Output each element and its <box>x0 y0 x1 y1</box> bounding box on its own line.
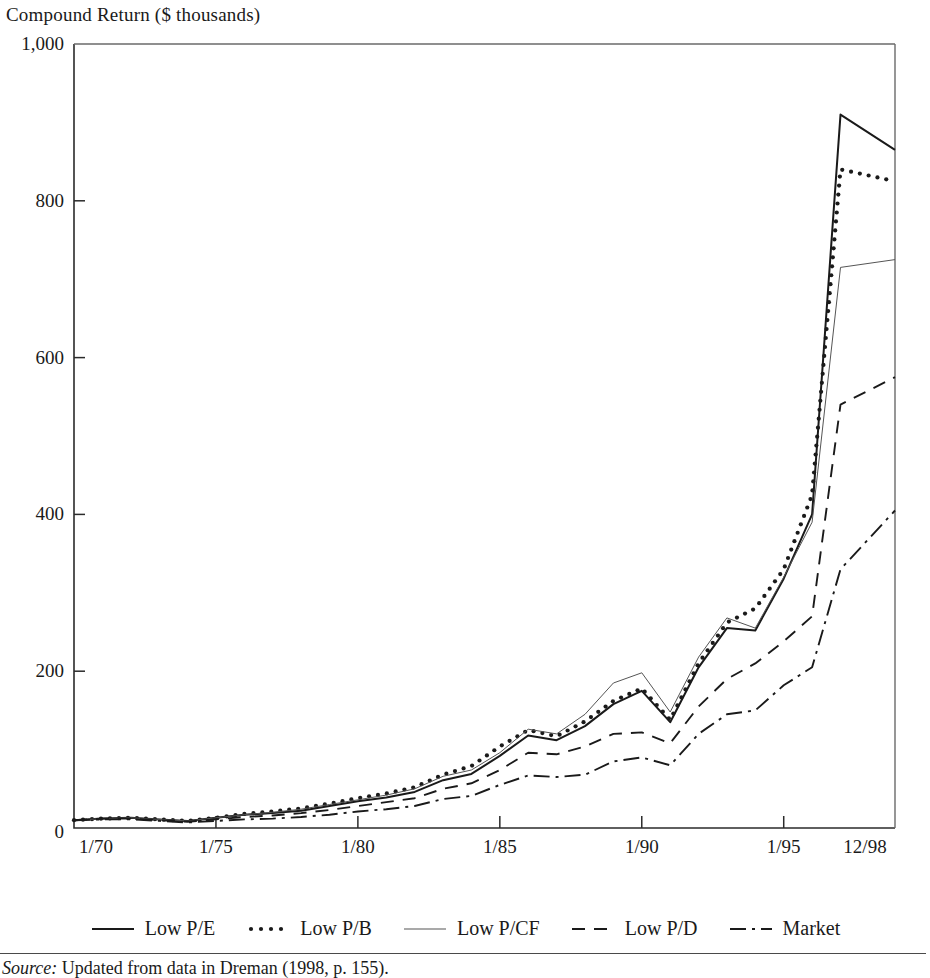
legend-item-low-p-d: Low P/D <box>570 917 698 940</box>
horizontal-divider <box>0 953 926 954</box>
legend-item-low-p-cf: Low P/CF <box>402 917 540 940</box>
y-tick-label: 200 <box>2 660 64 682</box>
x-tick-label: 1/70 <box>79 836 113 858</box>
source-note: Source: Updated from data in Dreman (199… <box>2 958 389 978</box>
x-tick-label: 1/90 <box>625 836 659 858</box>
x-tick-label: 1/80 <box>341 836 375 858</box>
dotted-line-icon <box>245 921 291 935</box>
thin-solid-line-icon <box>402 921 448 935</box>
x-tick-label: 1/95 <box>767 836 801 858</box>
legend-label: Market <box>783 917 841 940</box>
source-label: Source: <box>2 958 57 978</box>
legend-label: Low P/B <box>300 917 372 940</box>
legend-label: Low P/CF <box>457 917 540 940</box>
legend-item-low-p-b: Low P/B <box>245 917 372 940</box>
y-tick-label: 0 <box>2 821 64 843</box>
y-tick-label: 600 <box>2 347 64 369</box>
figure-container: Compound Return ($ thousands) 0200400600… <box>0 0 930 978</box>
legend-label: Low P/D <box>625 917 698 940</box>
dash-dot-line-icon <box>728 921 774 935</box>
y-tick-label: 800 <box>2 190 64 212</box>
x-tick-label: 1/75 <box>199 836 233 858</box>
source-body: Updated from data in Dreman (1998, p. 15… <box>57 958 388 978</box>
y-tick-label: 400 <box>2 503 64 525</box>
x-tick-label: 1/85 <box>483 836 517 858</box>
plot-area: 02004006008001,000 1/701/751/801/851/901… <box>0 0 930 880</box>
legend-item-low-p-e: Low P/E <box>90 917 216 940</box>
legend-label: Low P/E <box>145 917 216 940</box>
dashed-line-icon <box>570 921 616 935</box>
solid-thick-line-icon <box>90 921 136 935</box>
x-tick-label: 12/98 <box>843 836 886 858</box>
chart-legend: Low P/ELow P/BLow P/CFLow P/DMarket <box>0 906 930 950</box>
line-chart <box>0 0 930 880</box>
y-tick-label: 1,000 <box>2 33 64 55</box>
legend-item-market: Market <box>728 917 841 940</box>
